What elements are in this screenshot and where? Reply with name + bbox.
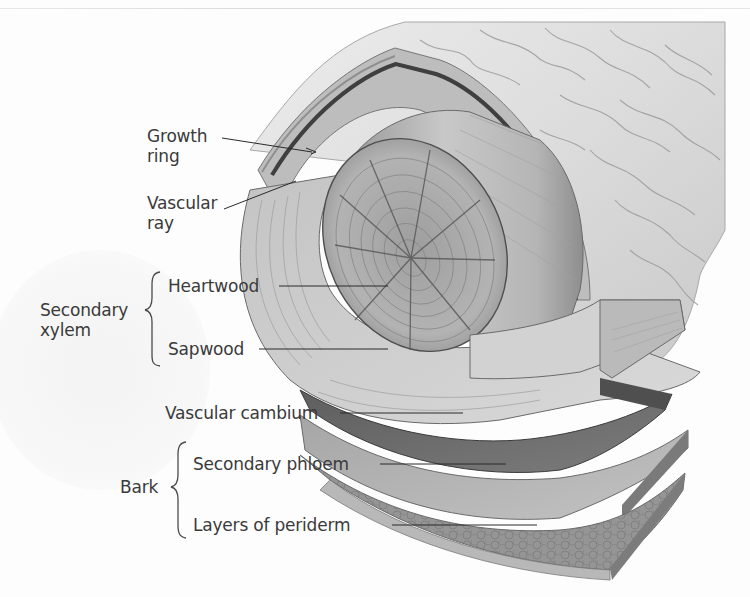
- label-sapwood: Sapwood: [168, 339, 244, 359]
- label-vascular-cambium: Vascular cambium: [165, 403, 318, 423]
- label-vascular-ray: Vascular ray: [147, 193, 237, 233]
- label-vascular-ray-line1: Vascular: [147, 193, 237, 213]
- diagram-canvas: Growth ring Vascular ray Heartwood Sapwo…: [0, 0, 750, 597]
- label-secondary-phloem: Secondary phloem: [193, 454, 349, 474]
- brace-bark: [171, 442, 186, 538]
- brace-secondary-xylem: [145, 272, 160, 366]
- label-vascular-ray-line2: ray: [147, 213, 237, 233]
- label-growth-ring: Growth ring: [147, 126, 237, 166]
- label-secondary-xylem-line2: xylem: [40, 320, 130, 340]
- label-layers-of-periderm: Layers of periderm: [193, 515, 350, 535]
- label-secondary-xylem-line1: Secondary: [40, 300, 130, 320]
- label-heartwood: Heartwood: [168, 276, 259, 296]
- label-bark: Bark: [120, 477, 158, 497]
- label-secondary-xylem: Secondary xylem: [40, 300, 130, 340]
- label-growth-ring-line2: ring: [147, 146, 237, 166]
- label-growth-ring-line1: Growth: [147, 126, 237, 146]
- stem-illustration: [0, 0, 750, 597]
